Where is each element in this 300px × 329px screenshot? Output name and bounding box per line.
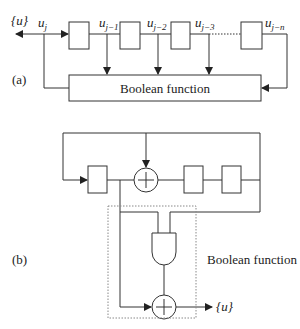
and-gate: [152, 233, 176, 265]
part-b-label: (b): [12, 253, 27, 266]
output-label-a: {u}: [11, 14, 28, 27]
tap-label-uj-2: uj−2: [147, 16, 167, 29]
tap-ujn: [262, 34, 287, 88]
register-3: [171, 22, 190, 49]
boolean-function-label-b: Boolean function: [207, 253, 297, 266]
tap-label-ujn: uj−n: [265, 16, 285, 29]
tap-label-uj-1: uj−1: [99, 16, 119, 29]
register-n: [241, 22, 262, 49]
boolean-function-region-b: [108, 206, 196, 318]
tap-label-uj-3: uj−3: [195, 16, 215, 29]
part-b-diagram: [63, 133, 260, 319]
register-b1: [88, 166, 107, 193]
part-a-label: (a): [12, 73, 26, 86]
diagram-canvas: [0, 0, 300, 329]
tap-label-uj: uj: [38, 16, 47, 29]
register-2: [120, 22, 140, 49]
tap-uj: [44, 34, 69, 88]
register-1: [69, 22, 89, 49]
register-b3: [222, 166, 241, 193]
feedback-line: [63, 133, 260, 212]
boolean-function-label-a: Boolean function: [69, 82, 261, 95]
output-label-b: {u}: [216, 300, 233, 313]
register-b2: [184, 166, 203, 193]
